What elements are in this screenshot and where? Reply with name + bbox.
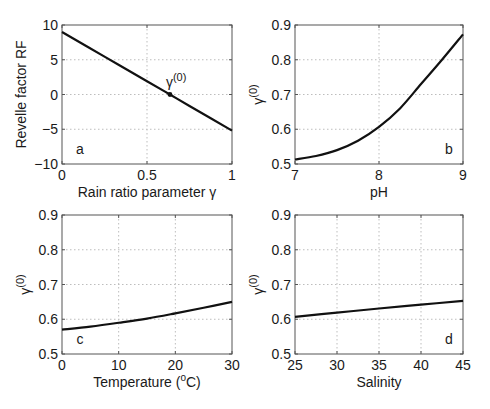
data-line bbox=[62, 302, 232, 330]
y-tick-label: 0.6 bbox=[272, 121, 292, 137]
x-axis-label: Rain ratio parameter γ bbox=[78, 184, 217, 200]
x-tick-label: 40 bbox=[413, 357, 429, 373]
x-tick-label: 30 bbox=[329, 357, 345, 373]
gamma0-marker bbox=[168, 92, 173, 97]
chart-panel-a: 00.51−10−50510Rain ratio parameter γReve… bbox=[13, 17, 236, 200]
y-tick-label: 0.9 bbox=[272, 17, 292, 33]
y-tick-label: 5 bbox=[50, 52, 58, 68]
y-tick-label: 0.8 bbox=[272, 52, 292, 68]
y-tick-label: 0.8 bbox=[272, 242, 292, 258]
chart-panel-b: 7890.50.60.70.80.9pHγ(0)b bbox=[247, 17, 467, 200]
y-tick-label: 0.7 bbox=[39, 277, 59, 293]
x-tick-label: 20 bbox=[168, 357, 184, 373]
chart-panel-d: 25303540450.50.60.70.80.9Salinityγ(0)d bbox=[247, 207, 471, 390]
y-tick-label: 0.9 bbox=[272, 207, 292, 223]
y-tick-label: 0.5 bbox=[272, 156, 292, 172]
svg-text:γ(0): γ(0) bbox=[247, 274, 266, 294]
svg-text:γ(0): γ(0) bbox=[247, 84, 266, 104]
x-tick-label: 0.5 bbox=[137, 167, 157, 183]
svg-text:γ(0): γ(0) bbox=[166, 71, 186, 90]
x-tick-label: 10 bbox=[111, 357, 127, 373]
x-tick-label: 0 bbox=[58, 167, 66, 183]
panel-letter: a bbox=[76, 141, 84, 157]
panel-letter: b bbox=[445, 141, 453, 157]
x-tick-label: 8 bbox=[375, 167, 383, 183]
x-tick-label: 7 bbox=[291, 167, 299, 183]
y-tick-label: 0.5 bbox=[272, 346, 292, 362]
data-line bbox=[62, 32, 232, 131]
panel-letter: d bbox=[445, 331, 453, 347]
panel-letter: c bbox=[77, 331, 84, 347]
y-axis-label: γ(0) bbox=[14, 274, 33, 294]
y-tick-label: 0.8 bbox=[39, 242, 59, 258]
y-axis-label: γ(0) bbox=[247, 274, 266, 294]
grid bbox=[295, 215, 463, 354]
x-tick-label: 35 bbox=[371, 357, 387, 373]
y-tick-label: 0.7 bbox=[272, 87, 292, 103]
x-tick-label: 45 bbox=[455, 357, 471, 373]
y-tick-label: 0.6 bbox=[39, 311, 59, 327]
y-tick-label: −5 bbox=[42, 121, 58, 137]
svg-text:γ(0): γ(0) bbox=[14, 274, 33, 294]
x-tick-label: 9 bbox=[459, 167, 467, 183]
y-tick-label: −10 bbox=[34, 156, 58, 172]
y-tick-label: 0.9 bbox=[39, 207, 59, 223]
x-tick-label: 1 bbox=[228, 167, 236, 183]
x-axis-label: Salinity bbox=[356, 374, 401, 390]
y-axis-label: γ(0) bbox=[247, 84, 266, 104]
figure: 00.51−10−50510Rain ratio parameter γReve… bbox=[0, 0, 490, 409]
y-tick-label: 0.5 bbox=[39, 346, 59, 362]
grid bbox=[62, 215, 232, 354]
y-tick-label: 10 bbox=[42, 17, 58, 33]
y-axis-label: Revelle factor RF bbox=[13, 40, 29, 148]
x-tick-label: 30 bbox=[224, 357, 240, 373]
x-axis-label: Temperature (oC) bbox=[93, 372, 201, 390]
y-tick-label: 0.7 bbox=[272, 277, 292, 293]
y-tick-label: 0 bbox=[50, 87, 58, 103]
chart-panel-c: 01020300.50.60.70.80.9Temperature (oC)γ(… bbox=[14, 207, 240, 390]
x-axis-label: pH bbox=[370, 184, 388, 200]
x-tick-label: 0 bbox=[58, 357, 66, 373]
y-tick-label: 0.6 bbox=[272, 311, 292, 327]
grid bbox=[295, 25, 463, 164]
gamma0-annotation: γ(0) bbox=[166, 71, 186, 90]
